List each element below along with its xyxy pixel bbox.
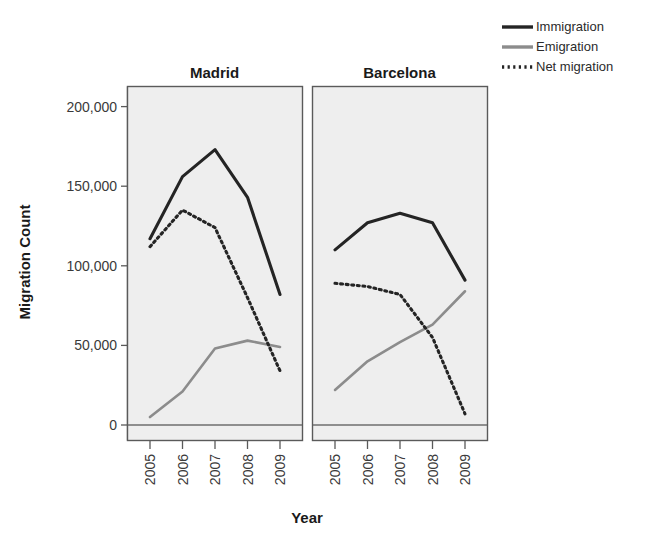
x-tick-label: 2008 [425,454,441,485]
x-tick-label: 2009 [272,454,288,485]
y-axis-title: Migration Count [16,205,33,320]
x-tick-label: 2006 [175,454,191,485]
legend-item-immigration[interactable]: Immigration [502,19,604,34]
migration-line-chart: Migration Count 050,000100,000150,000200… [0,0,653,542]
x-tick-label: 2005 [327,454,343,485]
y-tick-label: 200,000 [66,99,117,115]
x-tick-label: 2008 [240,454,256,485]
legend: Immigration Emigration Net migration [502,19,613,74]
panel-madrid: Madrid 20052006200720082009 [128,64,303,485]
y-tick-label: 150,000 [66,178,117,194]
panel-barcelona-title: Barcelona [363,64,436,81]
y-tick-label: 100,000 [66,258,117,274]
legend-label-emigration: Emigration [536,39,598,54]
legend-item-net-migration[interactable]: Net migration [502,59,613,74]
x-tick-label: 2006 [360,454,376,485]
x-axis-title: Year [291,509,323,526]
panel-madrid-x-ticks: 20052006200720082009 [142,441,288,485]
legend-label-immigration: Immigration [536,19,604,34]
chart-figure: Migration Count 050,000100,000150,000200… [0,0,653,542]
y-tick-label: 50,000 [74,337,117,353]
x-tick-label: 2007 [207,454,223,485]
y-tick-group: 050,000100,000150,000200,000 [66,87,128,441]
x-tick-label: 2009 [457,454,473,485]
y-axis: Migration Count 050,000100,000150,000200… [16,87,128,441]
y-tick-label: 0 [109,417,117,433]
x-tick-label: 2007 [392,454,408,485]
legend-label-net-migration: Net migration [536,59,613,74]
legend-item-emigration[interactable]: Emigration [502,39,598,54]
x-tick-label: 2005 [142,454,158,485]
panel-barcelona-x-ticks: 20052006200720082009 [327,441,473,485]
panel-madrid-title: Madrid [190,64,239,81]
panel-barcelona: Barcelona 20052006200720082009 [313,64,488,485]
panel-madrid-background [128,87,303,441]
